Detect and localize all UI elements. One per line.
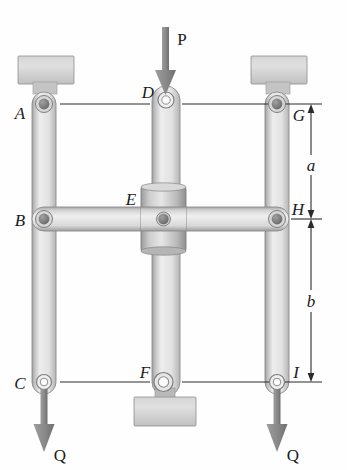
engineering-diagram: a b [0,0,347,470]
label-force-Q-left: Q [54,446,66,465]
label-H: H [291,200,306,219]
dimension-b-label: b [307,292,316,311]
label-D: D [141,83,155,102]
dimension-b: b [303,219,320,382]
joint-C [37,375,52,390]
force-arrow-Q-right [267,389,288,452]
label-E: E [125,190,137,209]
top-left-support-block [18,56,74,84]
joint-I [270,375,285,390]
joint-E [157,212,171,226]
force-arrow-P [155,27,176,95]
label-C: C [14,374,26,393]
diagram-canvas: a b [0,0,347,470]
joint-H [269,211,286,228]
joint-F [154,373,173,392]
label-force-P: P [177,30,186,49]
label-force-Q-right: Q [287,446,299,465]
label-A: A [14,104,26,123]
joint-D [158,92,174,108]
member-right-vertical-bar [265,92,289,394]
label-B: B [15,211,26,230]
joint-G [269,96,286,113]
joint-B [36,211,53,228]
member-left-vertical-bar [32,92,56,394]
label-F: F [139,363,151,382]
label-I: I [292,363,300,382]
joint-A [36,96,53,113]
top-right-support-block [251,56,307,84]
label-G: G [293,106,305,125]
force-arrow-Q-left [34,389,55,452]
dimension-a-label: a [307,156,316,175]
bottom-center-support-block [134,388,196,426]
dimension-a: a [303,104,320,219]
